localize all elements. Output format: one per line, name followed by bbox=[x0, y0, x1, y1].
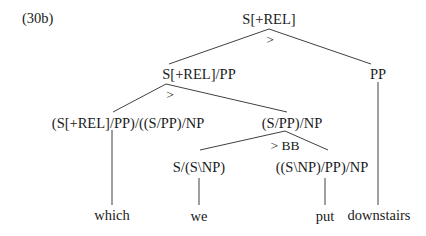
edge-n1-n3 bbox=[113, 84, 166, 112]
node-root: S[+REL] bbox=[242, 12, 295, 27]
leaf-which: which bbox=[94, 208, 129, 223]
edge-root-n2 bbox=[269, 29, 371, 64]
example-label: (30b) bbox=[22, 11, 53, 26]
node-s-rel-pp: S[+REL]/PP bbox=[162, 67, 235, 82]
node-s-pp-np: (S/PP)/NP bbox=[262, 116, 322, 131]
rule-backward-composition: > BB bbox=[271, 139, 300, 153]
node-pp: PP bbox=[370, 67, 386, 82]
rule-forward-application: > bbox=[266, 33, 274, 47]
node-put-category: ((S\NP)/PP)/NP bbox=[276, 160, 369, 175]
edge-root-n1 bbox=[169, 29, 269, 64]
node-we-category: S/(S\NP) bbox=[173, 160, 225, 175]
ccg-derivation-tree: (30b) S[+REL] > S[+REL]/PP PP > (S[+REL]… bbox=[0, 0, 426, 236]
rule-forward-application: > bbox=[166, 88, 174, 102]
leaf-downstairs: downstairs bbox=[348, 208, 411, 223]
leaf-put: put bbox=[316, 209, 335, 224]
leaf-we: we bbox=[191, 209, 208, 224]
node-which-category: (S[+REL]/PP)/((S/PP)/NP bbox=[52, 116, 204, 131]
edge-n1-n4 bbox=[166, 84, 287, 112]
